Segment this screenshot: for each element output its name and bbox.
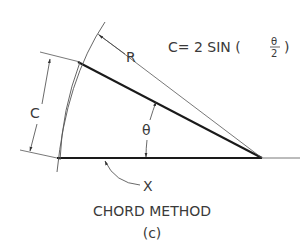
sublabel: (c) [143,225,162,241]
chord-dimension-upper [42,59,50,104]
baseline-label: X [143,178,153,194]
radius-leader [99,35,125,54]
formula-rhs: ) [284,39,289,55]
angle-arc-lower [146,140,147,157]
formula-lhs: C= 2 SIN ( [168,39,241,55]
inner-arc [60,62,80,160]
angle-arc-upper [150,102,156,120]
x-leader [105,161,140,185]
chord-ext-bottom [20,150,57,158]
angled-line [78,62,262,158]
angle-label: θ [142,122,151,138]
formula-numerator: θ [271,36,277,47]
radius-label: R [126,49,136,65]
formula-denominator: 2 [271,48,277,59]
chord-label: C [30,105,40,121]
chord-dimension-lower [30,124,37,151]
chord-method-diagram: R C θ X C= 2 SIN ( θ 2 ) CHORD METHOD (c… [0,0,306,248]
formula: C= 2 SIN ( θ 2 ) [168,36,289,59]
caption: CHORD METHOD [93,203,211,219]
outer-arc [57,22,105,172]
chord-ext-top [40,52,80,62]
